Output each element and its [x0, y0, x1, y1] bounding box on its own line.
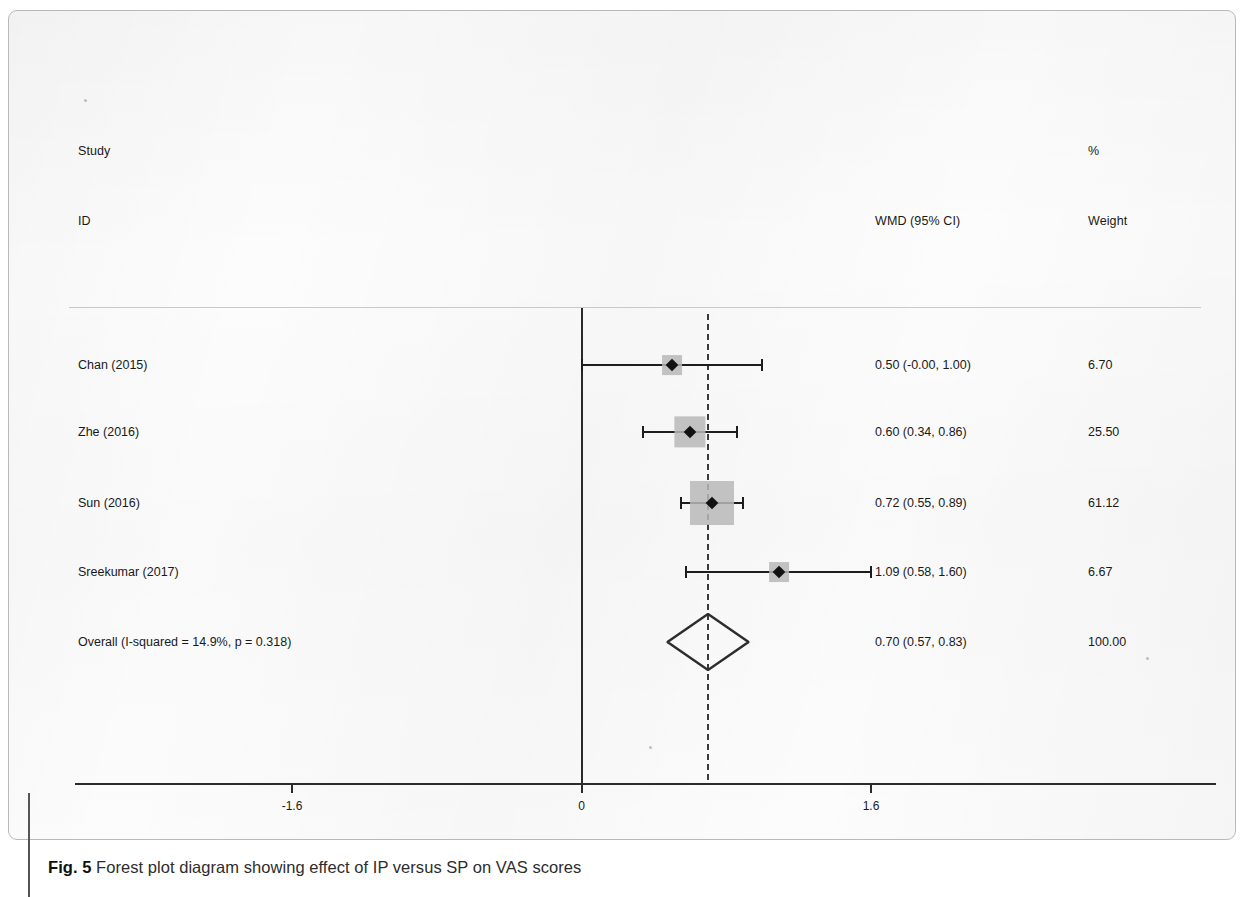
study-label: Sun (2016) [78, 496, 140, 510]
x-axis-tick [291, 783, 293, 793]
pooled-effect-line [707, 314, 709, 780]
caption-left-rule [28, 793, 30, 897]
header-separator-rule [69, 307, 1201, 308]
effect-estimate-text: 0.60 (0.34, 0.86) [875, 425, 967, 439]
study-weight-text: 6.70 [1088, 358, 1112, 372]
x-axis-tick [581, 783, 583, 793]
study-weight-text: 6.67 [1088, 565, 1112, 579]
x-axis-tick-label: -1.6 [282, 799, 303, 813]
x-axis-line [75, 783, 1216, 785]
null-effect-line [581, 308, 583, 783]
scan-speck [84, 99, 87, 102]
confidence-interval-cap-high [870, 566, 872, 578]
column-header-id: ID [78, 214, 91, 228]
figure-caption: Fig. 5 Forest plot diagram showing effec… [48, 858, 581, 877]
study-label: Zhe (2016) [78, 425, 139, 439]
x-axis-tick-label: 0 [578, 799, 585, 813]
effect-estimate-text: 0.72 (0.55, 0.89) [875, 496, 967, 510]
confidence-interval-cap-low [642, 426, 644, 438]
column-header-effect: WMD (95% CI) [875, 214, 960, 228]
scan-speck [649, 746, 652, 749]
study-weight-text: 61.12 [1088, 496, 1119, 510]
overall-weight-text: 100.00 [1088, 635, 1126, 649]
confidence-interval-cap-high [736, 426, 738, 438]
effect-estimate-text: 1.09 (0.58, 1.60) [875, 565, 967, 579]
confidence-interval-cap-low [685, 566, 687, 578]
scan-speck [1146, 657, 1149, 660]
overall-effect-text: 0.70 (0.57, 0.83) [875, 635, 967, 649]
confidence-interval-cap-low [581, 359, 583, 371]
pooled-effect-diamond [667, 613, 750, 671]
figure-caption-text: Forest plot diagram showing effect of IP… [91, 858, 581, 876]
x-axis-tick [870, 783, 872, 793]
study-weight-text: 25.50 [1088, 425, 1119, 439]
forest-plot-figure: Study ID % Weight WMD (95% CI) Chan (201… [0, 0, 1244, 897]
column-header-percent: % [1088, 144, 1099, 158]
overall-label: Overall (I-squared = 14.9%, p = 0.318) [78, 635, 291, 649]
figure-panel: Study ID % Weight WMD (95% CI) Chan (201… [8, 10, 1236, 840]
study-label: Chan (2015) [78, 358, 148, 372]
plot-surface: Study ID % Weight WMD (95% CI) Chan (201… [9, 11, 1236, 840]
study-label: Sreekumar (2017) [78, 565, 179, 579]
x-axis-tick-label: 1.6 [863, 799, 880, 813]
confidence-interval-cap-high [742, 497, 744, 509]
confidence-interval-cap-low [680, 497, 682, 509]
figure-caption-number: Fig. 5 [48, 858, 91, 876]
effect-estimate-text: 0.50 (-0.00, 1.00) [875, 358, 971, 372]
column-header-study: Study [78, 144, 110, 158]
column-header-weight: Weight [1088, 214, 1127, 228]
confidence-interval-cap-high [761, 359, 763, 371]
